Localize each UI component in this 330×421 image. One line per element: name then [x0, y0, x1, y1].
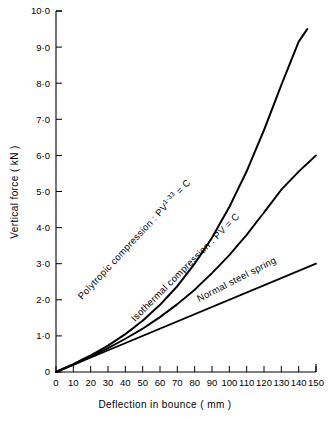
y-tick-label: 1·0 [36, 330, 50, 341]
x-tick-label: 100 [221, 377, 237, 388]
x-axis-ticks [56, 366, 316, 372]
y-tick-label: 7·0 [36, 114, 50, 125]
x-tick-label: 140 [291, 377, 307, 388]
x-tick-label: 60 [155, 377, 166, 388]
x-tick-label: 40 [120, 377, 131, 388]
y-axis-tick-labels: 01·02·03·04·05·06·07·08·09·010·0 [31, 5, 50, 377]
x-tick-label: 70 [172, 377, 183, 388]
y-tick-label: 4·0 [36, 222, 50, 233]
y-tick-label: 8·0 [36, 78, 50, 89]
x-tick-label: 150 [308, 377, 324, 388]
x-tick-label: 20 [85, 377, 96, 388]
x-tick-label: 110 [239, 377, 254, 388]
x-axis-title: Deflection in bounce ( mm ) [98, 399, 231, 410]
curve-label-polytropic-text: Polytropic compression : PV [75, 201, 170, 302]
x-tick-label: 80 [189, 377, 200, 388]
y-tick-label: 6·0 [36, 150, 50, 161]
y-tick-label: 5·0 [36, 186, 50, 197]
y-tick-label: 2·0 [36, 294, 50, 305]
x-tick-label: 120 [256, 377, 272, 388]
x-tick-label: 30 [103, 377, 114, 388]
y-axis-ticks [56, 11, 62, 372]
x-tick-label: 90 [207, 377, 218, 388]
x-axis-tick-labels: 0102030405060708090100110120130140150 [53, 377, 324, 388]
data-curves [56, 29, 316, 372]
y-tick-label: 9·0 [36, 42, 50, 53]
x-tick-label: 50 [137, 377, 148, 388]
chart-svg: 01·02·03·04·05·06·07·08·09·010·0 0102030… [0, 0, 330, 421]
y-tick-label: 0 [45, 366, 50, 377]
x-tick-label: 10 [68, 377, 79, 388]
chart-figure: 01·02·03·04·05·06·07·08·09·010·0 0102030… [0, 0, 330, 421]
y-tick-label: 3·0 [36, 258, 50, 269]
x-tick-label: 130 [273, 377, 289, 388]
y-axis-title: Vertical force ( kN ) [9, 145, 20, 238]
y-tick-label: 10·0 [31, 5, 50, 16]
x-tick-label: 0 [53, 377, 58, 388]
